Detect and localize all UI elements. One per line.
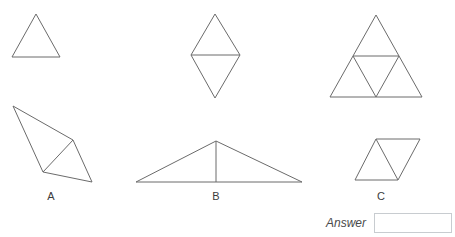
option-shape-b[interactable]	[136, 141, 302, 182]
answer-label: Answer	[326, 216, 366, 230]
answer-input[interactable]	[374, 213, 452, 233]
prompt-shape-3-divider-right	[376, 56, 399, 97]
option-b-outline	[136, 141, 302, 182]
option-label-a: A	[39, 190, 63, 202]
prompt-shape-single-triangle	[12, 14, 60, 57]
prompt-shape-1-outline	[12, 14, 60, 57]
option-a-diagonal	[43, 140, 73, 172]
option-c-diagonal	[376, 139, 398, 180]
option-shape-c[interactable]	[355, 139, 420, 180]
question-page: A B C Answer	[0, 0, 455, 237]
prompt-shape-3-divider-left	[353, 56, 376, 97]
prompt-shape-large-triangle-four-triangles	[330, 15, 422, 97]
prompt-shape-rhombus-two-triangles	[191, 14, 240, 98]
option-a-outline	[13, 106, 92, 182]
option-shape-a[interactable]	[13, 106, 92, 182]
option-label-b: B	[204, 190, 228, 202]
prompt-shape-2-outline	[191, 14, 240, 98]
option-label-c: C	[369, 190, 393, 202]
answer-row: Answer	[300, 211, 452, 235]
